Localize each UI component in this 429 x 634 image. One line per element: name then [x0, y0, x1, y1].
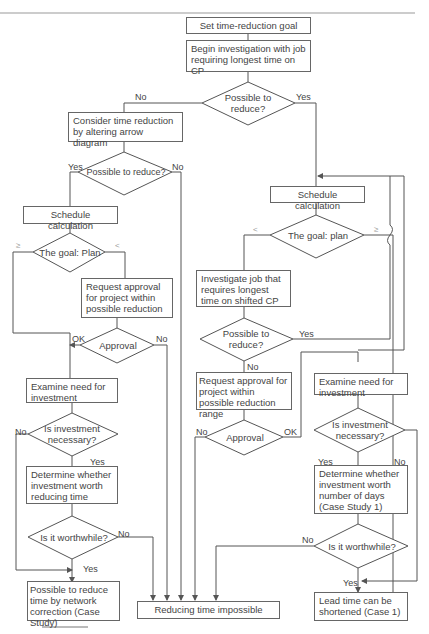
label-yes: Yes [299, 329, 314, 339]
label-yes: Yes [83, 564, 98, 574]
decision-possible-left: Possible to reduce? [86, 167, 165, 178]
label-no: No [15, 427, 27, 437]
examine-need-left-box: Examine need for investment [26, 378, 118, 403]
decision-goal-plan-left: The goal: Plan [39, 247, 100, 258]
label-no: No [196, 427, 208, 437]
label-yes: Yes [68, 162, 83, 172]
decision-worthwhile-left: Is it worthwhile? [40, 532, 108, 543]
decision-possible-right: Possible to reduce? [220, 328, 272, 350]
determine-right-box: Determine whether investment worth numbe… [314, 465, 408, 514]
label-no: No [135, 92, 147, 102]
result-left-box: Possible to reduce time by network corre… [27, 581, 120, 621]
label-yes: Yes [343, 578, 358, 588]
label-ok: OK [72, 334, 85, 344]
label-no: No [118, 529, 130, 539]
schedule-calc-right-box: Schedule calculation [270, 186, 365, 203]
request-approval-left-box: Request approval for project within poss… [81, 278, 173, 318]
consider-altering-box: Consider time reduction by altering arro… [68, 112, 183, 142]
decision-worthwhile-right: Is it worthwhile? [328, 541, 396, 552]
schedule-calc-left-box: Schedule calculation [23, 206, 118, 224]
impossible-box: Reducing time impossible [137, 601, 280, 619]
decision-approval-left: Approval [99, 340, 137, 351]
decision-goal-plan-right: The goal: plan [288, 230, 348, 241]
label-no: No [156, 334, 168, 344]
result-right-box: Lead time can be shortened (Case 1) [314, 592, 408, 621]
label-yes: Yes [296, 92, 311, 102]
decision-approval-right: Approval [226, 432, 264, 443]
begin-investigation-box: Begin investigation with job requiring l… [186, 40, 311, 72]
label-ok: OK [284, 427, 297, 437]
decision-possible-top: Possible to reduce? [218, 92, 278, 114]
label-no: No [302, 535, 314, 545]
label-ge: ≥ [16, 241, 20, 250]
label-no: No [247, 362, 259, 372]
decision-investment-right: Is investment necessary? [329, 419, 391, 441]
determine-left-box: Determine whether investment worth reduc… [26, 466, 118, 504]
label-lt: < [115, 241, 120, 250]
request-approval-right-box: Request approval for project within poss… [196, 372, 292, 410]
label-no: No [172, 162, 184, 172]
decision-investment-left: Is investment necessary? [41, 423, 103, 445]
label-lt: < [253, 225, 258, 234]
examine-need-right-box: Examine need for investment [314, 373, 408, 395]
investigate-shifted-box: Investigate job that requires longest ti… [196, 270, 291, 307]
label-ge: ≥ [374, 225, 378, 234]
set-goal-box: Set time-reduction goal [186, 17, 311, 34]
